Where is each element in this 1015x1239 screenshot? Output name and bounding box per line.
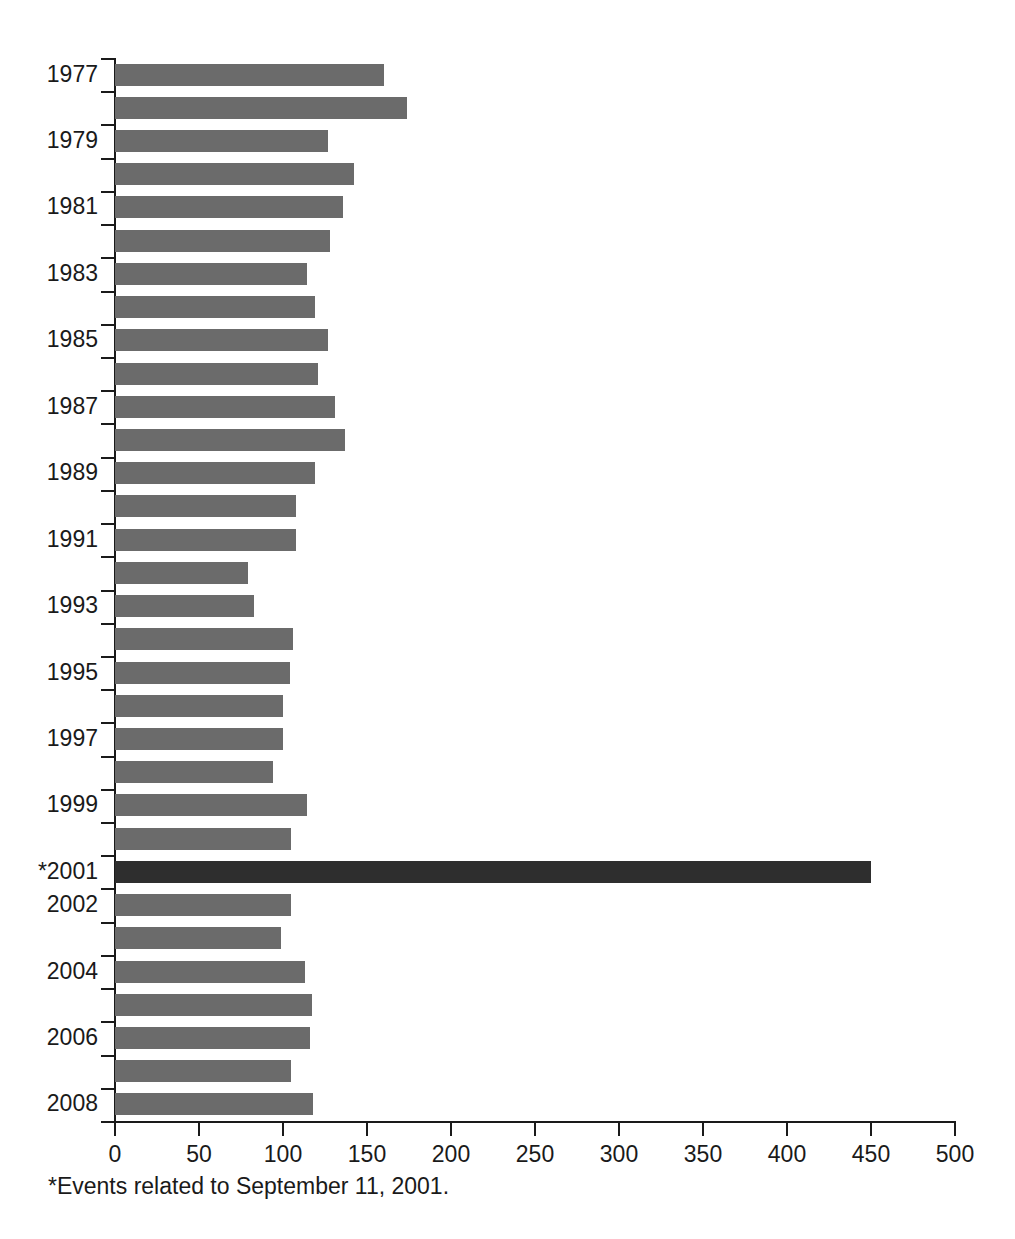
- bar-row: [115, 130, 955, 152]
- x-axis-label-100: 100: [264, 1141, 302, 1167]
- bar-1981: [115, 196, 343, 218]
- y-tick: [101, 357, 114, 359]
- bar-1990: [115, 495, 296, 517]
- y-tick: [101, 988, 114, 990]
- bar-1983: [115, 263, 307, 285]
- y-axis-label-1999: 1999: [2, 793, 98, 816]
- bar-row: [115, 296, 955, 318]
- y-tick: [101, 58, 114, 60]
- bar-2006: [115, 1027, 310, 1049]
- y-tick: [101, 224, 114, 226]
- bar-row: [115, 1027, 955, 1049]
- y-tick: [101, 1088, 114, 1090]
- bar-row: [115, 263, 955, 285]
- bar-row: [115, 462, 955, 484]
- y-axis-label-1987: 1987: [2, 395, 98, 418]
- y-tick: [101, 1121, 114, 1123]
- bar-1986: [115, 363, 318, 385]
- bar-row: [115, 529, 955, 551]
- y-tick: [101, 590, 114, 592]
- bar-row: [115, 230, 955, 252]
- x-axis-label-250: 250: [516, 1141, 554, 1167]
- bar-2008: [115, 1093, 313, 1115]
- bar-1989: [115, 462, 315, 484]
- y-tick: [101, 457, 114, 459]
- bar-row: [115, 1093, 955, 1115]
- x-tick: [702, 1122, 704, 1136]
- bar-2003: [115, 927, 281, 949]
- bar-2000: [115, 828, 291, 850]
- x-axis-label-400: 400: [768, 1141, 806, 1167]
- bar-1982: [115, 230, 330, 252]
- bar-2004: [115, 961, 305, 983]
- y-tick: [101, 390, 114, 392]
- y-axis-label-2006: 2006: [2, 1026, 98, 1049]
- bar-row: [115, 961, 955, 983]
- bar-1996: [115, 695, 283, 717]
- y-tick: [101, 656, 114, 658]
- x-tick: [114, 1122, 116, 1136]
- x-tick: [198, 1122, 200, 1136]
- bar-1979: [115, 130, 328, 152]
- bar-row: [115, 994, 955, 1016]
- x-tick: [534, 1122, 536, 1136]
- bar-2002: [115, 894, 291, 916]
- bar-row: [115, 363, 955, 385]
- x-tick: [786, 1122, 788, 1136]
- bar-row: [115, 761, 955, 783]
- x-tick: [450, 1122, 452, 1136]
- bar-1978: [115, 97, 407, 119]
- y-tick: [101, 1055, 114, 1057]
- bar-row: [115, 728, 955, 750]
- y-tick: [101, 158, 114, 160]
- x-axis-label-200: 200: [432, 1141, 470, 1167]
- bar-row: [115, 196, 955, 218]
- bar-1987: [115, 396, 335, 418]
- y-tick: [101, 756, 114, 758]
- bar-row: [115, 628, 955, 650]
- y-tick: [101, 722, 114, 724]
- y-axis-label-1997: 1997: [2, 727, 98, 750]
- y-tick: [101, 291, 114, 293]
- y-axis-label-1985: 1985: [2, 328, 98, 351]
- y-tick: [101, 623, 114, 625]
- y-tick: [101, 689, 114, 691]
- bar-row: [115, 396, 955, 418]
- bar-row: [115, 828, 955, 850]
- bar-chart: 1977197919811983198519871989199119931995…: [0, 0, 1015, 1239]
- y-tick: [101, 91, 114, 93]
- y-axis-labels: 1977197919811983198519871989199119931995…: [0, 0, 98, 1239]
- bar-1998: [115, 761, 273, 783]
- chart-footnote: *Events related to September 11, 2001.: [48, 1172, 449, 1200]
- bar-2005: [115, 994, 312, 1016]
- y-axis-label-1989: 1989: [2, 461, 98, 484]
- bar-row: [115, 495, 955, 517]
- bar-row: [115, 562, 955, 584]
- y-axis-label-2002: 2002: [2, 893, 98, 916]
- x-axis-label-500: 500: [936, 1141, 974, 1167]
- x-axis-label-350: 350: [684, 1141, 722, 1167]
- bar-row: [115, 163, 955, 185]
- y-axis-label-1991: 1991: [2, 528, 98, 551]
- bar-star2001: [115, 861, 871, 883]
- y-axis-label-2004: 2004: [2, 960, 98, 983]
- bar-row: [115, 329, 955, 351]
- plot-area: [115, 58, 955, 1121]
- bar-row: [115, 64, 955, 86]
- bar-1991: [115, 529, 296, 551]
- bar-1999: [115, 794, 307, 816]
- y-tick: [101, 855, 114, 857]
- bar-row: [115, 97, 955, 119]
- bar-row: [115, 595, 955, 617]
- y-axis-label-1995: 1995: [2, 661, 98, 684]
- y-tick: [101, 822, 114, 824]
- y-tick: [101, 490, 114, 492]
- bar-row: [115, 695, 955, 717]
- y-tick: [101, 324, 114, 326]
- bar-row: [115, 894, 955, 916]
- bar-row: [115, 662, 955, 684]
- y-tick: [101, 556, 114, 558]
- bar-1985: [115, 329, 328, 351]
- x-axis-label-300: 300: [600, 1141, 638, 1167]
- x-axis-label-0: 0: [109, 1141, 122, 1167]
